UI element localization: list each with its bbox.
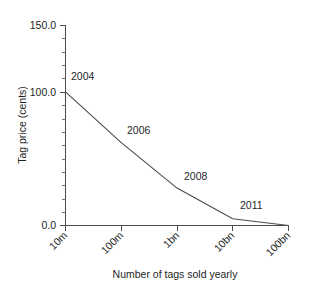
chart-container: 150.0 100.0 0.0 Tag price (cents) 10m 10… [0,0,315,288]
y-tick-label-100: 100.0 [30,86,56,98]
y-axis-title: Tag price (cents) [16,86,28,164]
annotation-2004: 2004 [71,70,95,82]
annotation-2011: 2011 [240,199,263,211]
x-tick-label-100bn: 100bn [263,229,292,258]
x-axis-title: Number of tags sold yearly [113,268,239,280]
x-tick-label-10bn: 10bn [211,229,236,254]
x-tick-label-10m: 10m [46,229,69,252]
x-tick-label-100m: 100m [98,229,125,256]
y-tick-label-0: 0.0 [41,219,56,231]
annotation-2006: 2006 [127,124,151,136]
x-tick-label-1bn: 1bn [161,229,182,250]
annotation-2008: 2008 [184,170,208,182]
y-tick-label-150: 150.0 [30,19,56,31]
line-chart: 150.0 100.0 0.0 Tag price (cents) 10m 10… [0,0,315,288]
